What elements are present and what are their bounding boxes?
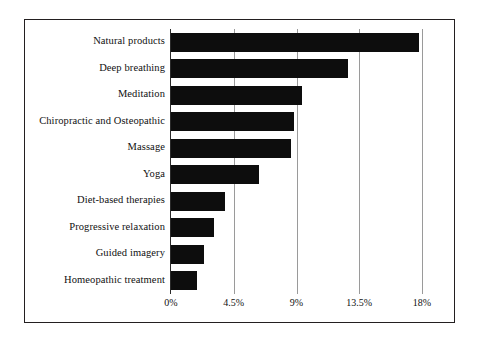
category-axis-labels: Natural productsDeep breathingMeditation… <box>25 29 165 294</box>
bar <box>171 33 419 52</box>
category-label: Guided imagery <box>25 247 165 258</box>
bar <box>171 218 214 237</box>
chart-plot-wrapper: Natural productsDeep breathingMeditation… <box>25 20 456 324</box>
bar <box>171 165 259 184</box>
bar-row <box>171 56 422 83</box>
x-tick-label: 18% <box>413 297 431 309</box>
x-tick-label: 0% <box>164 297 177 309</box>
category-label: Yoga <box>25 168 165 179</box>
bar <box>171 59 348 78</box>
category-label: Progressive relaxation <box>25 221 165 232</box>
x-tick-label: 9% <box>290 297 303 309</box>
category-label: Natural products <box>25 35 165 46</box>
category-label: Meditation <box>25 88 165 99</box>
bar-row <box>171 268 422 295</box>
bar-row <box>171 82 422 109</box>
bar <box>171 192 225 211</box>
bar-row <box>171 29 422 56</box>
plot-area <box>171 29 422 294</box>
gridline-18 <box>422 29 423 294</box>
bar <box>171 112 294 131</box>
category-label: Massage <box>25 141 165 152</box>
chart-frame-border: Natural productsDeep breathingMeditation… <box>24 19 455 323</box>
x-tick-label: 4.5% <box>223 297 244 309</box>
bar <box>171 139 291 158</box>
bar-row <box>171 135 422 162</box>
value-axis-tick-labels: 0%4.5%9%13.5%18% <box>171 297 431 313</box>
bar <box>171 86 302 105</box>
bar-row <box>171 109 422 136</box>
category-label: Diet-based therapies <box>25 194 165 205</box>
category-label: Chiropractic and Osteopathic <box>25 115 165 126</box>
bar-row <box>171 162 422 189</box>
chart-figure: Natural productsDeep breathingMeditation… <box>0 0 479 342</box>
category-label: Homeopathic treatment <box>25 274 165 285</box>
bar-row <box>171 215 422 242</box>
bar-row <box>171 188 422 215</box>
bar <box>171 271 197 290</box>
bar-row <box>171 241 422 268</box>
category-label: Deep breathing <box>25 62 165 73</box>
x-tick-label: 13.5% <box>346 297 372 309</box>
bar <box>171 245 204 264</box>
